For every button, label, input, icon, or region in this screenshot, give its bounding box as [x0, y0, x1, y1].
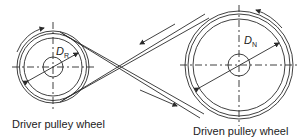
driven-diameter-label: DN: [244, 34, 257, 48]
driven-pulley: [180, 5, 300, 126]
belt-upper-arrow: [140, 24, 175, 44]
driver-pulley-label: Driver pulley wheel: [12, 118, 105, 130]
driver-diameter-label: DR: [56, 45, 69, 59]
driven-pulley-label: Driven pulley wheel: [193, 125, 288, 137]
driven-rotation-arrow: [256, 10, 282, 28]
